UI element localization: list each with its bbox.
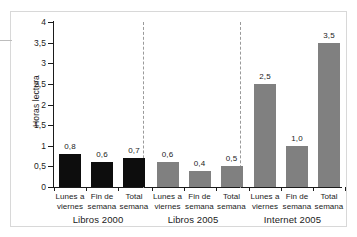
category-label-line2: semana bbox=[115, 202, 153, 212]
y-tick-mark bbox=[48, 166, 53, 167]
group-label-libros-2000: Libros 2000 bbox=[53, 214, 143, 225]
y-tick-mark bbox=[48, 146, 53, 147]
x-tick-mark bbox=[345, 187, 346, 191]
bar bbox=[157, 162, 179, 187]
x-tick-mark bbox=[118, 187, 119, 191]
y-tick-label: 0,5 bbox=[20, 162, 46, 171]
y-tick-label: 3,5 bbox=[20, 39, 46, 48]
bar-value-label: 1,0 bbox=[281, 135, 313, 143]
grouped-bar-chart: Horas lectura 00,511,522,533,54 0,80,60,… bbox=[0, 0, 357, 237]
y-tick-mark bbox=[48, 22, 53, 23]
y-tick-label: 0 bbox=[20, 183, 46, 192]
y-tick-label: 4 bbox=[20, 18, 46, 27]
group-label-internet-2005: Internet 2005 bbox=[243, 214, 342, 225]
category-label: Totalsemana bbox=[115, 192, 153, 212]
y-tick-label: 2,5 bbox=[20, 80, 46, 89]
category-label-line2: semana bbox=[310, 202, 348, 212]
bar bbox=[189, 171, 211, 188]
x-tick-mark bbox=[216, 187, 217, 191]
x-tick-mark bbox=[249, 187, 250, 191]
bar bbox=[286, 146, 308, 187]
y-tick-mark bbox=[48, 125, 53, 126]
bar bbox=[91, 162, 113, 187]
category-label: Totalsemana bbox=[213, 192, 251, 212]
y-tick-mark bbox=[48, 43, 53, 44]
group-label-libros-2005: Libros 2005 bbox=[146, 214, 240, 225]
x-tick-mark bbox=[313, 187, 314, 191]
bar-value-label: 0,4 bbox=[184, 160, 216, 168]
x-axis-line bbox=[53, 187, 342, 188]
bar-value-label: 0,7 bbox=[118, 147, 150, 155]
bar bbox=[254, 84, 276, 187]
bar-value-label: 0,8 bbox=[54, 143, 86, 151]
y-tick-mark bbox=[48, 63, 53, 64]
bar-value-label: 0,6 bbox=[86, 151, 118, 159]
y-tick-mark bbox=[48, 105, 53, 106]
x-tick-mark bbox=[152, 187, 153, 191]
x-tick-mark bbox=[54, 187, 55, 191]
category-label-line1: Total bbox=[213, 192, 251, 202]
bar bbox=[59, 154, 81, 187]
y-axis-line bbox=[53, 21, 54, 188]
bar bbox=[221, 166, 243, 187]
category-label: Totalsemana bbox=[310, 192, 348, 212]
bar-value-label: 0,5 bbox=[216, 155, 248, 163]
y-tick-label: 2 bbox=[20, 101, 46, 110]
y-tick-mark bbox=[48, 187, 53, 188]
bar bbox=[123, 158, 145, 187]
category-label-line2: semana bbox=[213, 202, 251, 212]
bar-value-label: 2,5 bbox=[249, 73, 281, 81]
x-tick-mark bbox=[281, 187, 282, 191]
bar-value-label: 0,6 bbox=[152, 151, 184, 159]
category-label-line1: Total bbox=[115, 192, 153, 202]
y-tick-label: 1,5 bbox=[20, 121, 46, 130]
bar bbox=[318, 43, 340, 187]
y-tick-label: 3 bbox=[20, 59, 46, 68]
x-tick-mark bbox=[86, 187, 87, 191]
bar-value-label: 3,5 bbox=[313, 32, 345, 40]
category-label-line1: Total bbox=[310, 192, 348, 202]
x-tick-mark bbox=[184, 187, 185, 191]
y-tick-mark bbox=[48, 84, 53, 85]
y-tick-label: 1 bbox=[20, 142, 46, 151]
